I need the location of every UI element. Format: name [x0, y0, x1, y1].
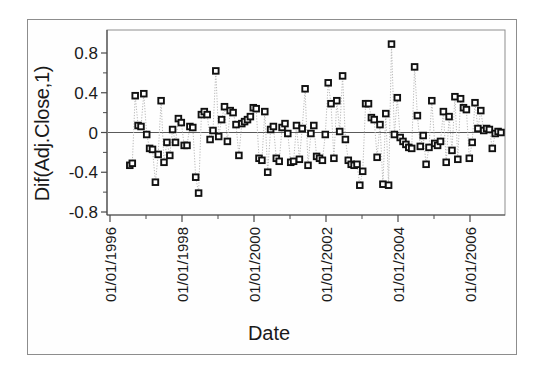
- data-point-marker[interactable]: [423, 162, 429, 168]
- data-point-marker[interactable]: [305, 163, 311, 169]
- data-point-marker[interactable]: [328, 101, 334, 107]
- data-point-marker[interactable]: [429, 98, 435, 104]
- plot-frame: [107, 30, 505, 215]
- data-point-marker[interactable]: [374, 155, 380, 161]
- data-point-marker[interactable]: [230, 110, 236, 116]
- data-point-marker[interactable]: [386, 182, 392, 188]
- data-point-marker[interactable]: [360, 169, 366, 175]
- data-point-marker[interactable]: [472, 100, 478, 106]
- data-point-marker[interactable]: [415, 113, 421, 119]
- data-point-marker[interactable]: [184, 143, 190, 149]
- data-point-marker[interactable]: [383, 111, 389, 117]
- data-point-marker[interactable]: [219, 117, 225, 123]
- data-point-marker[interactable]: [138, 124, 144, 130]
- data-point-marker[interactable]: [207, 137, 213, 143]
- data-point-marker[interactable]: [158, 98, 164, 104]
- x-tick-labels: 01/01/199601/01/199801/01/200001/01/2002…: [102, 227, 479, 302]
- series-connector-line: [130, 44, 501, 193]
- data-point-marker[interactable]: [248, 114, 254, 120]
- data-point-marker[interactable]: [418, 144, 424, 150]
- x-tick-label: 01/01/1998: [174, 227, 191, 302]
- data-point-marker[interactable]: [132, 93, 138, 99]
- data-point-marker[interactable]: [412, 64, 418, 70]
- data-point-marker[interactable]: [458, 96, 464, 102]
- data-point-marker[interactable]: [216, 134, 222, 140]
- data-point-marker[interactable]: [498, 130, 504, 136]
- data-point-marker[interactable]: [271, 124, 277, 130]
- data-point-marker[interactable]: [308, 131, 314, 137]
- data-point-marker[interactable]: [236, 153, 242, 159]
- data-point-marker[interactable]: [213, 68, 219, 74]
- data-point-marker[interactable]: [343, 137, 349, 143]
- data-point-marker[interactable]: [438, 139, 444, 145]
- data-point-marker[interactable]: [276, 159, 282, 165]
- x-tick-label: 01/01/2002: [318, 227, 335, 302]
- y-tick-labels: 0.80.40-0.4-0.8: [69, 44, 98, 222]
- data-point-marker[interactable]: [282, 121, 288, 127]
- data-point-marker[interactable]: [170, 127, 176, 133]
- data-point-marker[interactable]: [233, 122, 239, 128]
- data-point-marker[interactable]: [164, 140, 170, 146]
- data-point-marker[interactable]: [302, 86, 308, 92]
- data-point-marker[interactable]: [299, 126, 305, 132]
- data-point-marker[interactable]: [210, 128, 216, 134]
- data-point-marker[interactable]: [420, 133, 426, 139]
- data-point-marker[interactable]: [464, 107, 470, 113]
- data-point-marker[interactable]: [311, 123, 317, 129]
- data-point-marker[interactable]: [469, 140, 475, 146]
- data-point-marker[interactable]: [265, 169, 271, 175]
- data-point-marker[interactable]: [253, 106, 259, 112]
- data-point-marker[interactable]: [179, 120, 185, 126]
- data-point-marker[interactable]: [337, 129, 343, 135]
- x-axis: [107, 215, 505, 222]
- series-data-markers[interactable]: [127, 41, 504, 196]
- data-point-marker[interactable]: [259, 158, 265, 164]
- data-point-marker[interactable]: [487, 127, 493, 133]
- data-point-marker[interactable]: [173, 140, 179, 146]
- data-point-marker[interactable]: [130, 161, 136, 167]
- data-point-marker[interactable]: [285, 131, 291, 137]
- data-point-marker[interactable]: [366, 101, 372, 107]
- data-point-marker[interactable]: [190, 125, 196, 131]
- data-point-marker[interactable]: [153, 179, 159, 185]
- data-point-marker[interactable]: [478, 108, 484, 114]
- data-point-marker[interactable]: [389, 41, 395, 47]
- data-point-marker[interactable]: [340, 73, 346, 79]
- data-point-marker[interactable]: [467, 156, 473, 162]
- data-point-marker[interactable]: [377, 122, 383, 128]
- data-point-marker[interactable]: [443, 160, 449, 166]
- data-point-marker[interactable]: [409, 146, 415, 152]
- data-point-marker[interactable]: [371, 117, 377, 123]
- data-point-marker[interactable]: [331, 156, 337, 162]
- data-point-marker[interactable]: [193, 174, 199, 180]
- data-point-marker[interactable]: [455, 157, 461, 163]
- data-point-marker[interactable]: [446, 114, 452, 120]
- x-tick-label: 01/01/2004: [390, 227, 407, 302]
- data-point-marker[interactable]: [392, 132, 398, 138]
- data-point-marker[interactable]: [297, 157, 303, 163]
- data-point-marker[interactable]: [144, 132, 150, 138]
- data-point-marker[interactable]: [323, 132, 329, 138]
- data-point-marker[interactable]: [155, 152, 161, 158]
- data-point-marker[interactable]: [395, 95, 401, 101]
- data-point-marker[interactable]: [449, 148, 455, 154]
- y-tick-label: -0.8: [69, 203, 98, 222]
- data-point-marker[interactable]: [354, 162, 360, 168]
- data-point-marker[interactable]: [291, 159, 297, 165]
- y-axis-title: Dif(Adj.Close,1): [31, 39, 54, 229]
- data-point-marker[interactable]: [204, 112, 210, 118]
- data-point-marker[interactable]: [161, 160, 167, 166]
- data-point-marker[interactable]: [225, 139, 231, 145]
- data-point-marker[interactable]: [320, 158, 326, 164]
- data-point-marker[interactable]: [262, 109, 268, 115]
- x-axis-title: Date: [0, 322, 538, 345]
- data-point-marker[interactable]: [334, 98, 340, 104]
- data-point-marker[interactable]: [475, 126, 481, 132]
- data-point-marker[interactable]: [325, 80, 331, 86]
- data-point-marker[interactable]: [167, 153, 173, 159]
- data-point-marker[interactable]: [196, 190, 202, 196]
- data-point-marker[interactable]: [141, 91, 147, 97]
- data-point-marker[interactable]: [490, 146, 496, 152]
- data-point-marker[interactable]: [357, 182, 363, 188]
- x-tick-label: 01/01/1996: [102, 227, 119, 302]
